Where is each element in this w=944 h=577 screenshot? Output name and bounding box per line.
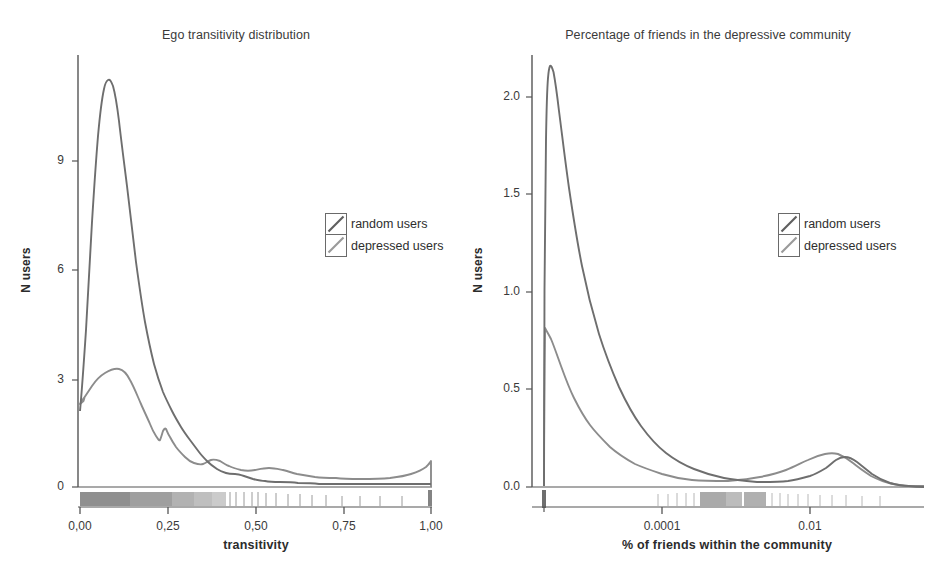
x-tick-label-000-left: 0,00	[42, 519, 118, 533]
plot-area-left	[0, 0, 472, 577]
x-tick-label-001-right: 0.01	[770, 519, 850, 533]
legend-item-depressed-users-left[interactable]: depressed users	[325, 235, 443, 257]
legend-swatch-random-users-right	[778, 213, 800, 235]
y-tick-label-6-left: 6	[40, 262, 64, 276]
curve-random-users-right	[544, 66, 924, 487]
y-tick-label-9-left: 9	[40, 153, 64, 167]
legend-item-random-users-left[interactable]: random users	[325, 213, 443, 235]
rug-plot-right	[542, 490, 880, 508]
legend-swatch-depressed-users-left	[325, 235, 347, 257]
figure-container: Ego transitivity distribution	[0, 0, 944, 577]
legend-item-random-users-right[interactable]: random users	[778, 213, 896, 235]
x-tick-label-100-left: 1,00	[393, 519, 469, 533]
y-tick-label-3-left: 3	[40, 372, 64, 386]
legend-left: random users depressed users	[325, 213, 443, 257]
y-tick-label-00-right: 0.0	[484, 479, 520, 493]
y-tick-label-15-right: 1.5	[484, 186, 520, 200]
curve-depressed-users-right	[544, 328, 924, 486]
x-tick-label-050-left: 0,50	[218, 519, 294, 533]
legend-swatch-random-users-left	[325, 213, 347, 235]
x-axis-label-right: % of friends within the community	[582, 538, 872, 552]
curve-random-users-left	[80, 80, 431, 484]
legend-right: random users depressed users	[778, 213, 896, 257]
curve-depressed-users-left	[80, 369, 431, 487]
legend-swatch-depressed-users-right	[778, 235, 800, 257]
chart-panel-right: Percentage of friends in the depressive …	[472, 0, 944, 577]
legend-label-depressed-users-left: depressed users	[351, 239, 443, 253]
x-axis-label-left: transitivity	[156, 538, 356, 552]
y-tick-label-10-right: 1.0	[484, 284, 520, 298]
legend-label-depressed-users-right: depressed users	[804, 239, 896, 253]
x-tick-label-025-left: 0,25	[130, 519, 206, 533]
y-axis-label-left: N users	[19, 235, 33, 305]
rug-plot-left	[80, 490, 432, 506]
x-tick-label-075-left: 0,75	[306, 519, 382, 533]
y-axis-label-right: N users	[471, 235, 485, 305]
y-tick-label-20-right: 2.0	[484, 89, 520, 103]
plot-area-right	[472, 0, 944, 577]
x-tick-label-00001-right: 0.0001	[617, 519, 707, 533]
chart-panel-left: Ego transitivity distribution	[0, 0, 472, 577]
legend-label-random-users-left: random users	[351, 217, 427, 231]
y-tick-label-0-left: 0	[40, 479, 64, 493]
legend-label-random-users-right: random users	[804, 217, 880, 231]
legend-item-depressed-users-right[interactable]: depressed users	[778, 235, 896, 257]
y-tick-label-05-right: 0.5	[484, 381, 520, 395]
